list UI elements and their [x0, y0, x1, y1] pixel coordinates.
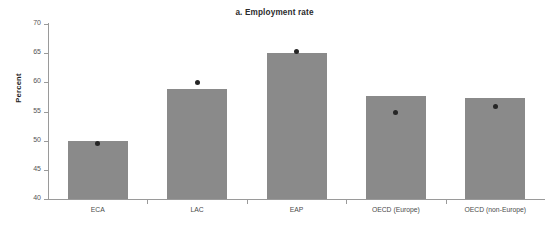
y-tick-mark — [44, 112, 48, 113]
y-tick-label: 65 — [33, 48, 41, 55]
marker-eap — [294, 49, 299, 54]
category-label-3: OECD (Europe) — [346, 206, 445, 213]
marker-oecd-non-europe — [493, 104, 498, 109]
y-tick-label: 50 — [33, 136, 41, 143]
marker-lac — [195, 80, 200, 85]
bar-oecd-non-europe — [465, 98, 525, 200]
x-tick-1 — [247, 200, 248, 204]
y-axis-title: Percent — [14, 58, 23, 118]
y-tick-50: 50 — [0, 141, 48, 142]
y-tick-label: 55 — [33, 107, 41, 114]
y-tick-55: 55 — [0, 112, 48, 113]
y-tick-label: 60 — [33, 77, 41, 84]
y-tick-mark — [44, 199, 48, 200]
bar-eap — [267, 53, 327, 199]
y-tick-65: 65 — [0, 53, 48, 54]
y-tick-mark — [44, 141, 48, 142]
category-label-1: LAC — [147, 206, 246, 213]
y-tick-mark — [44, 170, 48, 171]
bar-eca — [68, 141, 128, 199]
category-label-2: EAP — [247, 206, 346, 213]
x-axis-line — [48, 199, 545, 200]
chart-figure: a. Employment rate Percent 4045505560657… — [0, 0, 549, 237]
y-tick-label: 45 — [33, 165, 41, 172]
category-label-4: OECD (non-Europe) — [446, 206, 545, 213]
y-tick-mark — [44, 24, 48, 25]
x-tick-0 — [147, 200, 148, 204]
y-tick-45: 45 — [0, 170, 48, 171]
x-tick-2 — [346, 200, 347, 204]
y-tick-60: 60 — [0, 82, 48, 83]
x-tick-3 — [446, 200, 447, 204]
y-tick-70: 70 — [0, 24, 48, 25]
category-label-0: ECA — [48, 206, 147, 213]
chart-title: a. Employment rate — [0, 8, 549, 17]
y-axis-line — [48, 23, 49, 200]
y-tick-label: 70 — [33, 19, 41, 26]
bar-lac — [167, 89, 227, 199]
y-tick-40: 40 — [0, 199, 48, 200]
y-tick-label: 40 — [33, 194, 41, 201]
y-tick-mark — [44, 53, 48, 54]
y-tick-mark — [44, 82, 48, 83]
marker-eca — [95, 141, 100, 146]
